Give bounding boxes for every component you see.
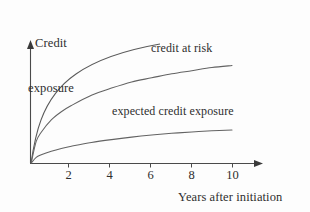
x-tick-label-10: 10 [223, 168, 243, 183]
x-tick-label-4: 4 [100, 168, 120, 183]
y-axis-title-line1: Credit [13, 36, 89, 51]
x-tick-label-6: 6 [141, 168, 161, 183]
x-axis-arrowhead [254, 160, 263, 167]
annotation-expected-credit-exposure: expected credit exposure [112, 104, 234, 119]
y-axis-title-line2: exposure [13, 81, 89, 96]
x-axis-title: Years after initiation [178, 190, 282, 205]
annotation-credit-at-risk: credit at risk [151, 41, 212, 56]
chart-figure: Credit exposure Years after initiation c… [0, 0, 310, 212]
x-tick-label-2: 2 [59, 168, 79, 183]
x-tick-label-8: 8 [182, 168, 202, 183]
expected-credit-exposure-line [31, 130, 232, 163]
x-axis-ticks [69, 164, 233, 168]
y-axis-title: Credit exposure [13, 6, 89, 126]
